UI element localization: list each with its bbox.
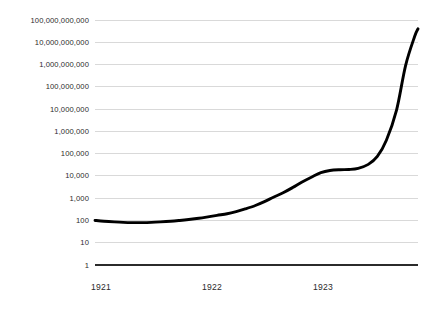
y-axis-tick-label: 100,000,000 — [46, 82, 89, 91]
y-axis-tick-label: 10 — [80, 238, 89, 247]
y-axis-tick-labels: 100,000,000,00010,000,000,0001,000,000,0… — [30, 16, 89, 270]
y-axis-tick-label: 10,000,000 — [50, 105, 89, 114]
y-axis-tick-label: 1,000 — [69, 194, 89, 203]
x-axis-tick-label: 1923 — [313, 282, 333, 292]
log-scale-line-chart: 100,000,000,00010,000,000,0001,000,000,0… — [0, 0, 436, 315]
x-axis-tick-label: 1922 — [202, 282, 222, 292]
y-axis-tick-label: 10,000,000,000 — [35, 38, 89, 47]
x-axis-tick-labels: 192119221923 — [91, 282, 333, 292]
y-axis-tick-label: 1 — [85, 261, 89, 270]
y-axis-tick-label: 100 — [76, 216, 89, 225]
x-axis-tick-label: 1921 — [91, 282, 111, 292]
series-line-price-index — [95, 29, 418, 223]
y-axis-tick-label: 10,000 — [65, 171, 89, 180]
data-series-group — [95, 29, 418, 223]
y-axis-tick-label: 1,000,000,000 — [39, 60, 89, 69]
chart-container: 100,000,000,00010,000,000,0001,000,000,0… — [0, 0, 436, 315]
gridlines — [95, 20, 418, 265]
y-axis-tick-label: 100,000,000,000 — [30, 16, 89, 25]
y-axis-tick-label: 1,000,000 — [54, 127, 89, 136]
y-axis-tick-label: 100,000 — [61, 149, 89, 158]
